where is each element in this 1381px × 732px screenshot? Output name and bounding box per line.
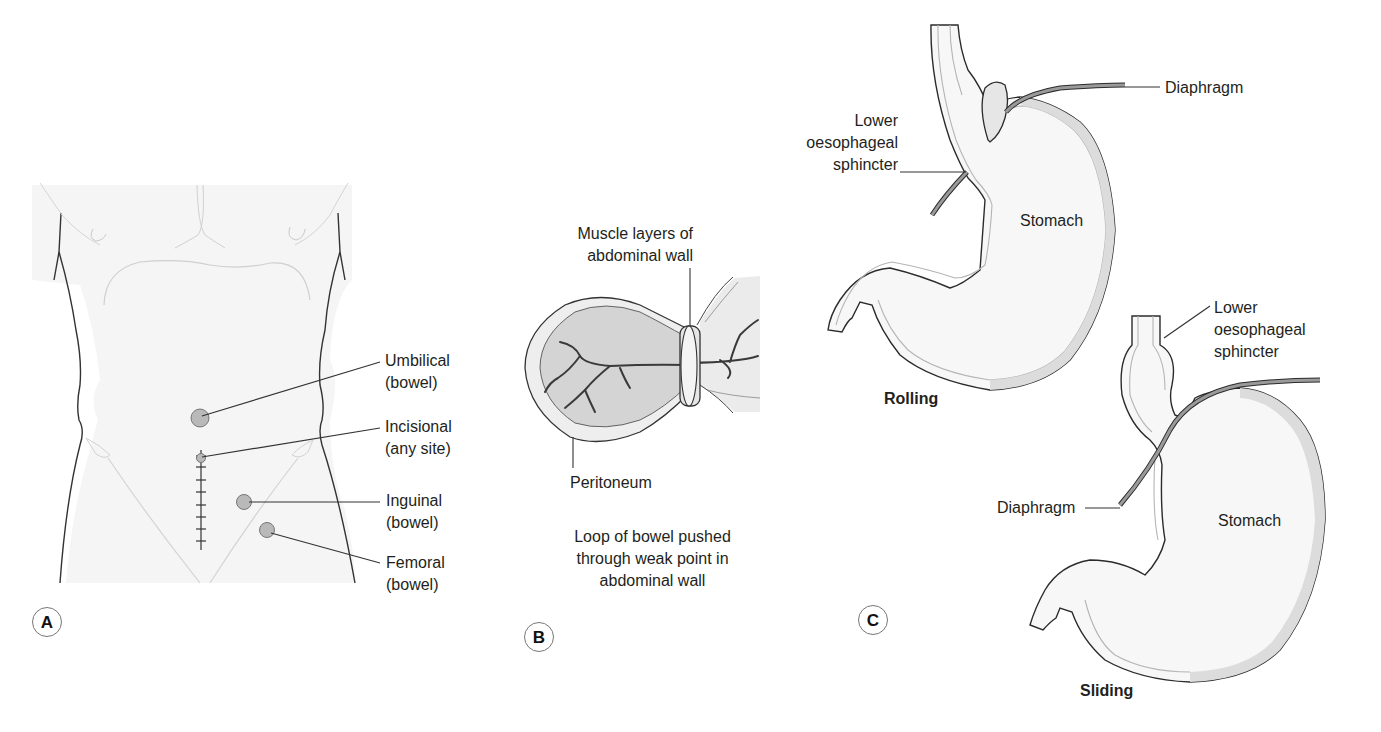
sliding-les-label: Lower oesophageal sphincter xyxy=(1214,297,1306,363)
rolling-les-line1: Lower xyxy=(800,110,898,132)
rolling-oesophagus xyxy=(828,25,1115,390)
sliding-stomach-label: Stomach xyxy=(1218,510,1281,532)
sliding-les-line2: oesophageal xyxy=(1214,319,1306,341)
rolling-les-line3: sphincter xyxy=(800,154,898,176)
sliding-les-line3: sphincter xyxy=(1214,341,1306,363)
rolling-les-line2: oesophageal xyxy=(800,132,898,154)
sliding-title: Sliding xyxy=(1080,680,1133,702)
rolling-stomach xyxy=(828,25,1125,390)
rolling-stomach-label: Stomach xyxy=(1020,210,1083,232)
rolling-les-label: Lower oesophageal sphincter xyxy=(800,110,898,176)
rolling-title: Rolling xyxy=(884,388,938,410)
sliding-les-line1: Lower xyxy=(1214,297,1306,319)
panel-c-badge: C xyxy=(858,605,888,635)
sliding-diaphragm-label: Diaphragm xyxy=(997,497,1075,519)
panel-c-hiatus-illustration xyxy=(0,0,1381,732)
rolling-diaphragm-left-fill xyxy=(932,172,967,215)
rolling-diaphragm-label: Diaphragm xyxy=(1165,77,1243,99)
sliding-les-leader xyxy=(1164,306,1210,338)
